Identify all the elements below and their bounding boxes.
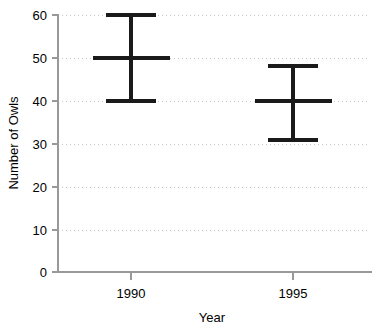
- y-tick-label-0: 0: [40, 265, 47, 280]
- y-tick-label-50: 50: [33, 51, 47, 66]
- y-tick-label-60: 60: [33, 8, 47, 23]
- x-tick-label-1990: 1990: [117, 286, 146, 301]
- y-axis-title: Number of Owls: [6, 96, 21, 190]
- y-tick-label-10: 10: [33, 223, 47, 238]
- y-tick-label-40: 40: [33, 94, 47, 109]
- x-axis-title: Year: [199, 310, 226, 325]
- chart-background: [0, 0, 375, 329]
- x-tick-label-1995: 1995: [279, 286, 308, 301]
- chart-svg: 60 50 40 30 20 10 0 1990 1995 Year Numbe…: [0, 0, 375, 329]
- y-tick-label-30: 30: [33, 137, 47, 152]
- owl-population-errorbar-chart: 60 50 40 30 20 10 0 1990 1995 Year Numbe…: [0, 0, 375, 329]
- y-tick-label-20: 20: [33, 180, 47, 195]
